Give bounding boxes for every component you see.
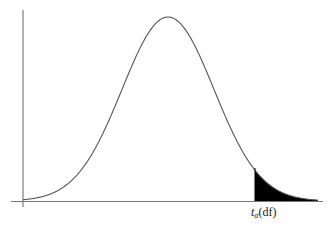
t-distribution-diagram: [0, 0, 331, 231]
critical-value-label: tα(df): [251, 205, 277, 220]
shaded-right-tail: [255, 170, 318, 201]
density-curve: [23, 17, 318, 200]
